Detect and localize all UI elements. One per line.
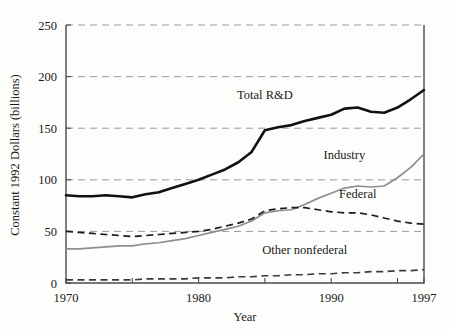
x-tick-label-group: 1970198019901997 [54,291,437,305]
y-tick-label-0: 0 [51,277,57,291]
series-label-total-randd: Total R&D [237,88,293,102]
series-line-other-nonfederal [66,270,424,280]
chart-canvas: 050100150200250 1970198019901997 Total R… [0,0,450,330]
series-line-total-randd [66,90,424,197]
rd-expenditure-chart: 050100150200250 1970198019901997 Total R… [0,0,450,330]
y-tick-label-200: 200 [38,70,57,84]
y-tick-label-150: 150 [38,122,57,136]
axis-group [66,25,424,283]
x-tick-label-1997: 1997 [412,291,437,305]
y-tick-label-50: 50 [45,225,58,239]
tickmark-group [66,25,424,283]
x-tick-label-1980: 1980 [186,291,211,305]
series-label-federal: Federal [339,187,377,201]
series-line-federal [66,208,424,237]
y-axis-title: Constant 1992 Dollars (billions) [8,74,22,235]
x-axis-title: Year [233,310,257,324]
plot-frame [66,25,424,283]
series-label-industry: Industry [324,148,366,162]
series-label-other-nonfederal: Other nonfederal [262,243,348,257]
y-tick-label-group: 050100150200250 [38,19,57,291]
series-line-group [66,90,424,280]
series-line-industry [66,154,424,249]
x-tick-label-1970: 1970 [54,291,79,305]
y-tick-label-100: 100 [38,173,57,187]
x-tick-label-1990: 1990 [319,291,344,305]
y-tick-label-250: 250 [38,19,57,33]
